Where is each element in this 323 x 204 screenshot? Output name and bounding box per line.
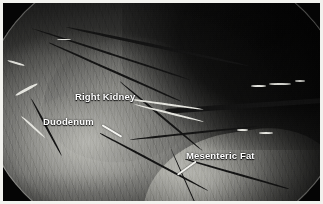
annotation-label-duodenum: Duodenum	[43, 116, 94, 127]
endoscope-circular-field	[3, 3, 320, 201]
image-frame: Right Kidney Duodenum Mesenteric Fat	[0, 0, 323, 204]
laparoscopic-photograph: Right Kidney Duodenum Mesenteric Fat	[3, 3, 320, 201]
annotation-label-mesenteric-fat: Mesenteric Fat	[186, 150, 255, 161]
endoscope-rim	[3, 3, 320, 201]
annotation-label-right-kidney: Right Kidney	[75, 91, 135, 102]
